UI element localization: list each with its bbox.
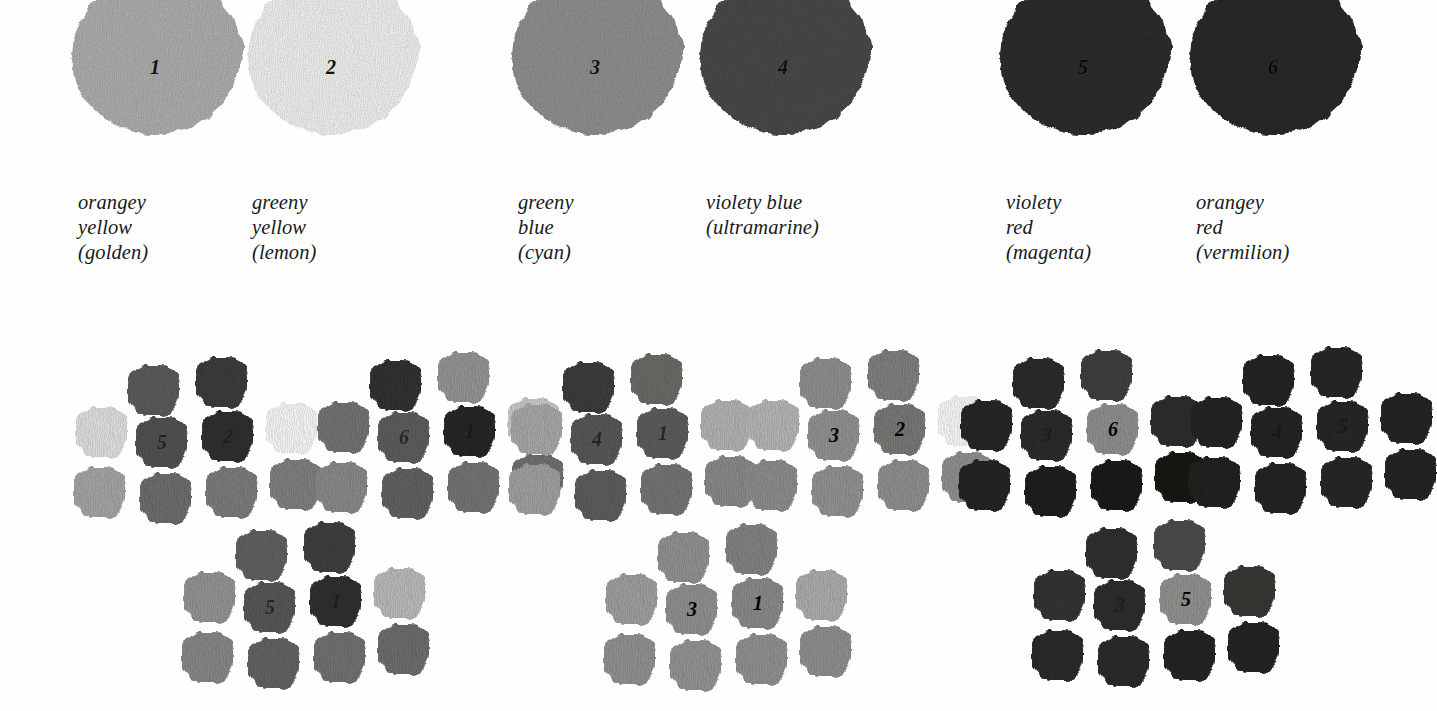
cluster-patch xyxy=(571,414,623,464)
cluster-patch xyxy=(1094,580,1146,630)
cluster-patch xyxy=(1224,566,1276,616)
patch-grain-texture xyxy=(1255,463,1307,513)
patch-grain-texture xyxy=(604,634,656,684)
cluster-patch xyxy=(1081,350,1133,400)
patch-grain-texture xyxy=(1025,466,1077,516)
patch-grain-texture xyxy=(1013,358,1065,408)
cluster-patch xyxy=(1311,347,1363,397)
patch-grain-texture xyxy=(206,467,258,517)
cluster-patch xyxy=(868,350,920,400)
patch-grain-texture xyxy=(248,638,300,688)
patch-grain-texture xyxy=(196,357,248,407)
cluster-patch xyxy=(575,470,627,520)
patch-grain-texture xyxy=(378,412,430,462)
cluster-patch xyxy=(248,638,300,688)
cluster-patch xyxy=(1228,622,1280,672)
patch-grain-texture xyxy=(1191,397,1243,447)
patch-grain-texture xyxy=(128,365,180,415)
swatch-caption-4: violety blue (ultramarine) xyxy=(706,190,819,240)
cluster-patch xyxy=(874,404,926,454)
cluster-patch xyxy=(604,634,656,684)
swatch-caption-3: greeny blue (cyan) xyxy=(518,190,574,265)
cluster-patch xyxy=(1191,397,1243,447)
patch-cluster-cluster-g: 36 xyxy=(955,348,1205,538)
cluster-patch xyxy=(266,403,318,453)
cluster-patch xyxy=(736,634,788,684)
cluster-patch xyxy=(318,402,370,452)
patch-grain-texture xyxy=(244,582,296,632)
cluster-patch xyxy=(606,574,658,624)
cluster-patch xyxy=(1013,358,1065,408)
cluster-patch xyxy=(808,410,860,460)
patch-grain-texture xyxy=(736,634,788,684)
patch-grain-texture xyxy=(316,462,368,512)
cluster-patch xyxy=(511,404,563,454)
cluster-patch xyxy=(370,360,422,410)
patch-grain-texture xyxy=(509,464,561,514)
cluster-patch xyxy=(310,576,362,626)
cluster-patch xyxy=(637,408,689,458)
patch-grain-texture xyxy=(1251,407,1303,457)
patch-grain-texture xyxy=(961,400,1013,450)
patch-grain-texture xyxy=(878,460,930,510)
cluster-patch xyxy=(378,624,430,674)
cluster-patch xyxy=(796,570,848,620)
patch-grain-texture xyxy=(370,360,422,410)
cluster-patch xyxy=(878,460,930,510)
patch-grain-texture xyxy=(796,570,848,620)
cluster-patch xyxy=(1189,457,1241,507)
patch-grain-texture xyxy=(304,522,356,572)
cluster-patch xyxy=(448,462,500,512)
cluster-patch xyxy=(184,572,236,622)
swatch-caption-1: orangey yellow (golden) xyxy=(78,190,148,265)
cluster-patch xyxy=(182,632,234,682)
patch-grain-texture xyxy=(1098,636,1150,686)
cluster-patch xyxy=(1385,449,1437,499)
patch-cluster-cluster-c: 51 xyxy=(178,520,428,710)
patch-grain-texture xyxy=(1224,566,1276,616)
patch-grain-texture xyxy=(76,407,128,457)
cluster-patch xyxy=(1021,410,1073,460)
cluster-patch xyxy=(641,464,693,514)
patch-grain-texture xyxy=(1087,404,1139,454)
patch-grain-texture xyxy=(666,584,718,634)
cluster-patch xyxy=(748,400,800,450)
cluster-patch xyxy=(304,522,356,572)
cluster-patch xyxy=(658,532,710,582)
patch-grain-texture xyxy=(670,640,722,690)
cluster-patch xyxy=(314,632,366,682)
cluster-patch xyxy=(666,584,718,634)
cluster-patch xyxy=(136,417,188,467)
swatch-number-4: 4 xyxy=(778,56,788,79)
patch-grain-texture xyxy=(1154,520,1206,570)
cluster-patch xyxy=(1160,574,1212,624)
cluster-patch xyxy=(140,473,192,523)
patch-grain-texture xyxy=(318,402,370,452)
patch-grain-texture xyxy=(1317,401,1369,451)
patch-grain-texture xyxy=(1164,630,1216,680)
swatch-number-2: 2 xyxy=(326,56,336,79)
cluster-patch xyxy=(1034,570,1086,620)
cluster-patch xyxy=(1091,460,1143,510)
cluster-patch xyxy=(746,460,798,510)
patch-grain-texture xyxy=(746,460,798,510)
patch-grain-texture xyxy=(438,352,490,402)
patch-grain-texture xyxy=(563,362,615,412)
patch-cluster-cluster-f: 31 xyxy=(600,522,850,711)
patch-grain-texture xyxy=(800,626,852,676)
cluster-patch xyxy=(1381,393,1433,443)
patch-grain-texture xyxy=(378,624,430,674)
patch-grain-texture xyxy=(184,572,236,622)
patch-grain-texture xyxy=(1160,574,1212,624)
patch-grain-texture xyxy=(136,417,188,467)
cluster-patch xyxy=(959,460,1011,510)
patch-cluster-cluster-a: 52 xyxy=(70,355,320,545)
cluster-patch xyxy=(76,407,128,457)
cluster-patch xyxy=(74,467,126,517)
cluster-patch xyxy=(1251,407,1303,457)
cluster-patch xyxy=(1321,457,1373,507)
cluster-patch xyxy=(670,640,722,690)
cluster-patch xyxy=(236,530,288,580)
cluster-patch xyxy=(732,578,784,628)
cluster-patch xyxy=(563,362,615,412)
